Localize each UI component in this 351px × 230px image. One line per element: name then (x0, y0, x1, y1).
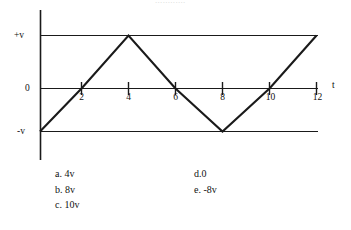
waveform-plot (0, 0, 351, 175)
x-tick-label-8: 8 (213, 92, 233, 103)
answer-option-a[interactable]: a. 4v (55, 166, 79, 182)
answer-option-b[interactable]: b. 8v (55, 182, 79, 198)
y-axis-label-negative-v: -v (17, 126, 25, 136)
answer-options-right-column: d.0 e. -8v (194, 166, 217, 197)
x-tick-label-4: 4 (119, 92, 139, 103)
answer-option-e[interactable]: e. -8v (194, 182, 217, 198)
x-tick-label-10: 10 (261, 92, 281, 103)
answer-option-d[interactable]: d.0 (194, 166, 217, 182)
x-tick-label-6: 6 (166, 92, 186, 103)
x-tick-label-12: 12 (308, 92, 328, 103)
answer-options: a. 4v b. 8v c. 10v d.0 e. -8v (0, 166, 351, 226)
figure-root: ............ +v 0 -v t 2 4 6 8 10 12 (0, 0, 351, 230)
x-tick-label-2: 2 (72, 92, 92, 103)
answer-option-c[interactable]: c. 10v (55, 197, 79, 213)
y-axis-label-positive-v: +v (14, 30, 24, 40)
x-axis-name-label: t (332, 80, 335, 90)
answer-options-left-column: a. 4v b. 8v c. 10v (55, 166, 79, 213)
y-axis-label-zero: 0 (25, 83, 30, 93)
